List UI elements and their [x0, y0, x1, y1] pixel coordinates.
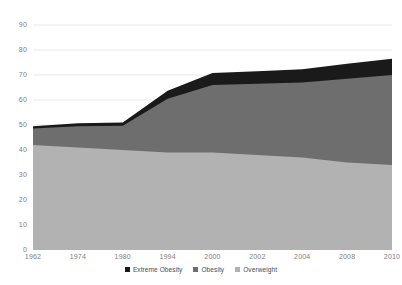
legend-swatch-icon	[235, 267, 240, 272]
legend-item-extreme-obesity[interactable]: Extreme Obesity	[125, 266, 183, 273]
x-axis-tick-label: 2000	[193, 252, 233, 261]
x-axis-tick-label: 2004	[282, 252, 322, 261]
legend-label: Overweight	[243, 266, 277, 273]
chart-legend: Extreme Obesity Obesity Overweight	[0, 266, 402, 273]
x-axis-tick-label: 2002	[237, 252, 277, 261]
x-axis-tick-label: 2008	[327, 252, 367, 261]
y-axis-tick-label: 20	[5, 196, 27, 204]
y-axis-tick-label: 10	[5, 221, 27, 229]
legend-item-overweight[interactable]: Overweight	[235, 266, 277, 273]
area-series-group	[33, 59, 392, 250]
legend-swatch-icon	[193, 267, 198, 272]
y-axis-tick-label: 40	[5, 146, 27, 154]
legend-item-obesity[interactable]: Obesity	[193, 266, 224, 273]
x-axis-tick-label: 1962	[13, 252, 53, 261]
y-axis-tick-label: 90	[5, 21, 27, 29]
legend-label: Extreme Obesity	[133, 266, 183, 273]
x-axis-tick-label: 1994	[148, 252, 188, 261]
chart-plot-area	[0, 0, 402, 285]
x-axis-tick-label: 1974	[58, 252, 98, 261]
legend-label: Obesity	[201, 266, 224, 273]
x-axis-tick-label: 2010	[372, 252, 402, 261]
y-axis-tick-label: 60	[5, 96, 27, 104]
legend-swatch-icon	[125, 267, 130, 272]
y-axis-tick-label: 80	[5, 46, 27, 54]
y-axis-tick-label: 70	[5, 71, 27, 79]
chart-container: 0102030405060708090 19621974198019942000…	[0, 0, 402, 285]
y-axis-tick-label: 50	[5, 121, 27, 129]
y-axis-tick-label: 30	[5, 171, 27, 179]
x-axis-tick-label: 1980	[103, 252, 143, 261]
